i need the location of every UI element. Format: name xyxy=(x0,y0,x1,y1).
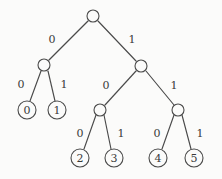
internal-node-n11 xyxy=(172,104,184,116)
edge-label-e-n11-leaf5: 1 xyxy=(197,127,204,140)
edge-label-e-n1-n10: 0 xyxy=(103,79,110,92)
edge-label-e-root-n1: 1 xyxy=(129,33,136,46)
edge-label-e-n0-leaf1: 1 xyxy=(61,78,68,91)
tree-edge-e-n11-leaf4 xyxy=(162,115,174,149)
edge-labels-group: 0101010101 xyxy=(18,33,204,140)
leaf-label-leaf5: 5 xyxy=(191,152,198,165)
tree-edge-e-n1-n10 xyxy=(105,71,136,105)
edge-label-e-n11-leaf4: 0 xyxy=(154,127,161,140)
leaf-label-leaf2: 2 xyxy=(77,152,84,165)
leaf-label-leaf1: 1 xyxy=(54,104,61,117)
edge-label-e-root-n0: 0 xyxy=(49,33,56,46)
binary-tree-diagram: 012345 0101010101 xyxy=(0,0,222,179)
internal-node-n10 xyxy=(94,104,106,116)
edge-label-e-n10-leaf2: 0 xyxy=(77,127,84,140)
leaf-label-leaf0: 0 xyxy=(24,104,31,117)
edge-label-e-n10-leaf3: 1 xyxy=(118,127,125,140)
tree-edge-e-n11-leaf5 xyxy=(182,115,191,149)
edge-label-e-n0-leaf0: 0 xyxy=(18,78,25,91)
leaf-label-leaf4: 4 xyxy=(155,152,162,165)
tree-edge-e-n0-leaf1 xyxy=(48,71,55,101)
internal-node-root xyxy=(87,10,99,22)
edge-label-e-n1-n11: 1 xyxy=(171,79,178,92)
internal-node-n1 xyxy=(135,60,147,72)
leaf-label-leaf3: 3 xyxy=(111,152,118,165)
tree-edge-e-n10-leaf3 xyxy=(104,115,111,149)
tree-diagram-canvas: 012345 0101010101 xyxy=(0,0,222,179)
tree-edge-e-n10-leaf2 xyxy=(84,115,96,149)
internal-node-n0 xyxy=(38,59,50,71)
tree-edge-e-n0-leaf0 xyxy=(30,71,41,101)
